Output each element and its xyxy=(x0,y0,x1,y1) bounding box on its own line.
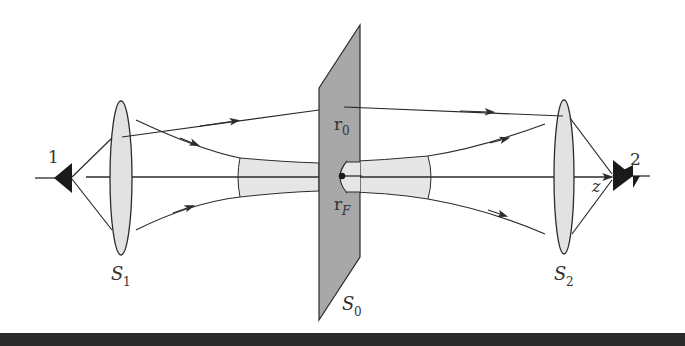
label-detector-2: 2 xyxy=(630,149,641,169)
optical-diagram: 1 2 S 1 S 2 S 0 r 0 r F z xyxy=(0,0,685,346)
ray-arrow-1 xyxy=(200,121,235,126)
label-lens-s1-sub: 1 xyxy=(123,275,131,289)
label-plane-s0: S xyxy=(342,293,354,314)
label-lens-s2-sub: 2 xyxy=(566,275,574,289)
lens-s2 xyxy=(554,100,574,254)
ray-r0-start xyxy=(344,107,360,108)
ray-plane-to-s2 xyxy=(344,107,563,116)
lens-s1 xyxy=(110,101,132,255)
label-detector-1: 1 xyxy=(48,147,59,167)
label-axis-z: z xyxy=(591,177,601,196)
label-lens-s1: S xyxy=(111,263,123,284)
beam-edge-upper-right xyxy=(428,124,545,156)
label-lens-s2: S xyxy=(554,263,566,284)
label-plane-s0-sub: 0 xyxy=(354,305,362,319)
cone-line-1-bottom xyxy=(72,179,112,230)
focal-point-rF xyxy=(339,173,346,180)
ray-arrow-3 xyxy=(180,138,195,144)
ray-arrow-4 xyxy=(173,207,190,213)
cone-line-2-top xyxy=(570,118,612,174)
beam-edge-lower-left xyxy=(136,197,240,230)
cone-line-1-top xyxy=(72,138,112,177)
bottom-border-bar xyxy=(0,333,685,346)
beam-edge-upper-left xyxy=(136,120,240,158)
beam-edge-lower-right xyxy=(428,199,545,234)
label-rF-sub: F xyxy=(341,204,351,218)
label-r0-sub: 0 xyxy=(342,124,350,138)
detector-1-icon xyxy=(54,163,72,193)
